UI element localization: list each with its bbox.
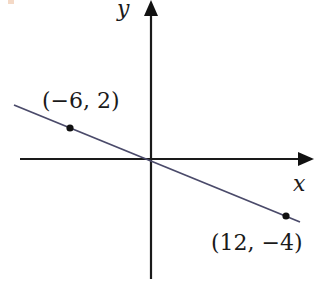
edge-artifact bbox=[8, 0, 14, 4]
coordinate-diagram: y x (−6, 2) (12, −4) bbox=[0, 0, 314, 281]
y-axis-arrow-icon bbox=[144, 0, 158, 16]
point-label-1: (−6, 2) bbox=[42, 88, 120, 113]
point-marker-1 bbox=[66, 124, 73, 131]
x-axis-arrow-icon bbox=[298, 152, 314, 166]
point-marker-2 bbox=[282, 212, 289, 219]
graph-line bbox=[14, 105, 300, 222]
point-label-2: (12, −4) bbox=[211, 230, 303, 255]
y-axis-label: y bbox=[116, 0, 130, 21]
x-axis-label: x bbox=[293, 171, 306, 196]
